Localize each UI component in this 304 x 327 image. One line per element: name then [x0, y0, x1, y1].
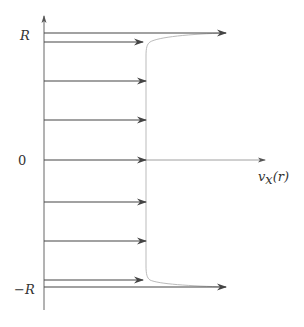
label-zero: 0 [18, 153, 26, 168]
velocity-profile-diagram: R 0 −R vx(r) [0, 0, 304, 327]
label-neg-R: −R [14, 282, 35, 297]
label-R: R [19, 28, 30, 43]
label-vx: vx(r) [258, 169, 289, 187]
